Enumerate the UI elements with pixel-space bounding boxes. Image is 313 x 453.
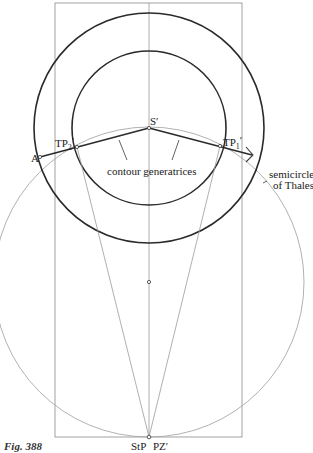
point-tp1-prime — [218, 144, 221, 147]
label-stp: StP — [131, 440, 146, 452]
picture-frame-rect — [55, 3, 242, 437]
stp-to-tp1-line — [149, 146, 220, 437]
label-pz-prime: PZ′ — [153, 440, 168, 452]
label-of-thales: of Thales — [273, 179, 313, 191]
point-thales-center — [147, 280, 150, 283]
label-a: A — [31, 152, 39, 164]
leader-line-left — [119, 140, 127, 160]
stp-to-tp2-line — [77, 147, 149, 437]
figure-caption: Fig. 388 — [3, 440, 42, 452]
figure-388-diagram: S′ TP2′ TP1′ A contour generatrices semi… — [0, 0, 313, 453]
leader-line-right — [172, 140, 179, 160]
label-tp2-prime: TP2′ — [55, 135, 74, 152]
point-stp — [147, 435, 151, 439]
label-contour-generatrices: contour generatrices — [107, 165, 196, 177]
label-s-prime: S′ — [150, 115, 159, 127]
point-tp2-prime — [75, 145, 78, 148]
leader-line-thales — [263, 181, 267, 183]
